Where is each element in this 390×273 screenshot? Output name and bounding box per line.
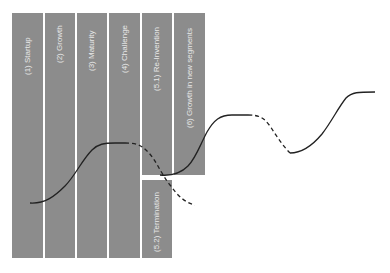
curve-dashed-dip — [248, 115, 290, 153]
curve-solid-growth — [290, 92, 375, 153]
lifecycle-curve — [0, 0, 390, 273]
curve-solid-initial — [30, 143, 125, 203]
curve-solid-reinvention — [160, 115, 248, 175]
curve-dashed-decline — [125, 143, 195, 205]
